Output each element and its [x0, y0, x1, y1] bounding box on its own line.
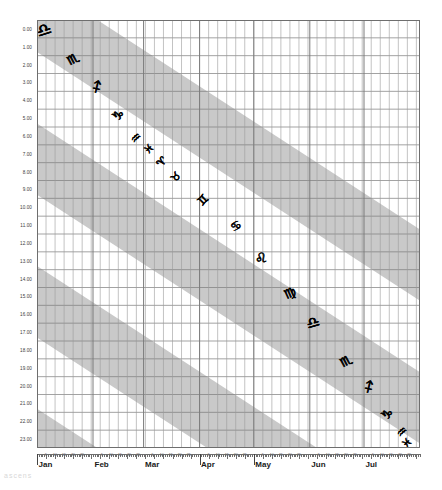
- x-axis-day-number: 10: [109, 453, 113, 457]
- zodiac-glyph-pisces: ♓: [142, 142, 157, 157]
- watermark-text: ascens: [4, 472, 32, 479]
- x-axis-day-number: 5: [152, 453, 154, 457]
- y-axis-tick-label: 11.00: [20, 223, 32, 228]
- zodiac-glyph-aries: ♈: [154, 154, 169, 169]
- x-axis-day-number: 25: [187, 453, 191, 457]
- zodiac-glyph-scorpio: ♏: [65, 51, 81, 68]
- x-axis: 5101520255101520255101520255101520255101…: [37, 448, 420, 490]
- x-axis-day-tick: [420, 454, 421, 457]
- y-axis-tick-label: 10.00: [20, 205, 32, 210]
- x-axis-day-number: 5: [101, 453, 103, 457]
- zodiac-glyph-libra: ♎: [305, 314, 322, 332]
- y-axis-tick-label: 13.00: [20, 258, 32, 263]
- x-axis-day-number: 25: [407, 453, 411, 457]
- x-axis-day-number: 25: [297, 453, 301, 457]
- x-axis-day-number: 15: [389, 453, 393, 457]
- x-axis-month-label: Mar: [145, 460, 159, 469]
- zodiac-glyph-virgo: ♍: [282, 285, 298, 302]
- y-axis-tick-label: 16.00: [20, 312, 32, 317]
- x-axis-day-number: 15: [62, 453, 66, 457]
- x-axis-day-number: 20: [178, 453, 182, 457]
- zodiac-glyph-capricorn: ♑: [379, 405, 396, 422]
- x-axis-day-number: 10: [53, 453, 57, 457]
- plot-area: ♎♏♐♑♒♓♈♉♊♋♌♍♎♏♐♑♒♓♈♉: [37, 20, 420, 448]
- x-axis-day-number: 10: [326, 453, 330, 457]
- x-axis-day-tick: [252, 454, 253, 457]
- zodiac-glyph-leo: ♌: [253, 250, 269, 267]
- x-axis-day-number: 5: [372, 453, 374, 457]
- x-axis-day-tick: [98, 454, 99, 457]
- y-axis-tick-label: 7.00: [23, 151, 32, 156]
- x-axis-day-number: 5: [262, 453, 264, 457]
- x-axis-day-number: 15: [225, 453, 229, 457]
- y-axis-tick-label: 17.00: [20, 330, 32, 335]
- x-axis-day-number: 20: [71, 453, 75, 457]
- zodiac-glyph-capricorn: ♑: [110, 107, 127, 124]
- zodiac-glyph-layer: ♎♏♐♑♒♓♈♉♊♋♌♍♎♏♐♑♒♓♈♉: [37, 20, 420, 448]
- y-axis-tick-label: 4.00: [23, 98, 32, 103]
- x-axis-day-number: 15: [279, 453, 283, 457]
- x-axis-day-number: 5: [208, 453, 210, 457]
- y-axis-tick-label: 21.00: [20, 401, 32, 406]
- x-axis-day-tick: [360, 454, 361, 457]
- x-axis-day-number: 10: [216, 453, 220, 457]
- x-axis-day-tick: [315, 454, 316, 457]
- y-axis-tick-label: 18.00: [20, 347, 32, 352]
- y-axis-tick-label: 0.00: [23, 26, 32, 31]
- zodiac-glyph-sagittarius: ♐: [361, 379, 378, 396]
- y-axis-tick-label: 22.00: [20, 419, 32, 424]
- x-axis-day-number: 25: [353, 453, 357, 457]
- zodiac-glyph-scorpio: ♏: [338, 352, 354, 369]
- x-axis-day-number: 25: [80, 453, 84, 457]
- y-axis-tick-label: 19.00: [20, 365, 32, 370]
- zodiac-glyph-aquarius: ♒: [128, 130, 144, 146]
- zodiac-glyph-libra: ♎: [37, 20, 54, 40]
- zodiac-glyph-sagittarius: ♐: [88, 78, 105, 95]
- x-axis-day-tick: [306, 454, 307, 457]
- x-axis-month-label: Apr: [201, 460, 215, 469]
- y-axis-tick-label: 9.00: [23, 187, 32, 192]
- x-axis-day-tick: [144, 454, 145, 457]
- x-axis-day-tick: [89, 454, 90, 457]
- y-axis-tick-label: 20.00: [20, 383, 32, 388]
- x-axis-day-number: 10: [380, 453, 384, 457]
- x-axis-day-tick: [198, 454, 199, 457]
- y-axis-labels: 0.001.002.003.004.005.006.007.008.009.00…: [0, 20, 35, 448]
- x-axis-month-label: Jun: [311, 460, 325, 469]
- x-axis-month-label: May: [255, 460, 271, 469]
- y-axis-tick-label: 1.00: [23, 44, 32, 49]
- x-axis-month-label: Jan: [39, 460, 53, 469]
- y-axis-tick-label: 12.00: [20, 240, 32, 245]
- x-axis-day-number: 25: [243, 453, 247, 457]
- y-axis-tick-label: 6.00: [23, 133, 32, 138]
- y-axis-tick-label: 3.00: [23, 80, 32, 85]
- x-axis-day-number: 25: [136, 453, 140, 457]
- zodiac-glyph-cancer: ♋: [228, 218, 243, 234]
- zodiac-glyph-gemini: ♊: [195, 192, 211, 208]
- x-axis-day-number: 5: [318, 453, 320, 457]
- ascendant-chart: 0.001.002.003.004.005.006.007.008.009.00…: [0, 0, 442, 490]
- x-axis-day-number: 20: [344, 453, 348, 457]
- y-axis-tick-label: 15.00: [20, 294, 32, 299]
- x-axis-day-number: 15: [118, 453, 122, 457]
- x-axis-day-number: 20: [127, 453, 131, 457]
- x-axis-day-number: 20: [288, 453, 292, 457]
- x-axis-month-label: Feb: [95, 460, 109, 469]
- x-axis-day-number: 10: [270, 453, 274, 457]
- x-axis-day-number: 5: [45, 453, 47, 457]
- y-axis-tick-label: 2.00: [23, 62, 32, 67]
- x-axis-day-number: 20: [234, 453, 238, 457]
- x-axis-day-tick: [415, 454, 416, 457]
- x-axis-day-number: 10: [160, 453, 164, 457]
- y-axis-tick-label: 5.00: [23, 116, 32, 121]
- x-axis-day-tick: [369, 454, 370, 457]
- x-axis-day-number: 15: [335, 453, 339, 457]
- y-axis-tick-label: 23.00: [20, 437, 32, 442]
- x-axis-month-label: Jul: [366, 460, 378, 469]
- zodiac-glyph-taurus: ♉: [169, 170, 184, 185]
- x-axis-day-number: 15: [169, 453, 173, 457]
- x-axis-day-number: 20: [398, 453, 402, 457]
- y-axis-tick-label: 14.00: [20, 276, 32, 281]
- y-axis-tick-label: 8.00: [23, 169, 32, 174]
